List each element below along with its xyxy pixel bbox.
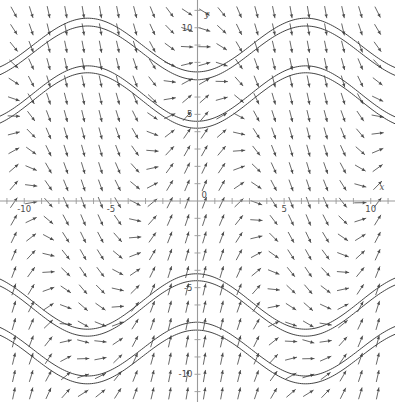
field-arrow-head: [170, 163, 173, 167]
field-arrow-head: [186, 301, 189, 305]
field-arrow-head: [273, 49, 276, 53]
field-arrow-head: [65, 152, 68, 156]
field-arrow-head: [238, 319, 241, 323]
field-arrow-head: [293, 340, 296, 343]
field-arrow-head: [290, 170, 293, 174]
field-arrow-head: [290, 31, 293, 35]
axes-layer: [0, 0, 395, 402]
field-arrow-head: [65, 83, 68, 87]
field-arrow-head: [325, 170, 328, 174]
field-arrow-head: [50, 254, 54, 257]
field-arrow-head: [169, 388, 172, 392]
field-arrow-head: [31, 267, 34, 271]
field-arrow-head: [102, 357, 106, 360]
field-arrow-head: [221, 301, 224, 305]
field-arrow-head: [65, 49, 68, 53]
field-arrow-head: [82, 31, 85, 35]
field-arrow-head: [135, 152, 138, 156]
field-arrow-head: [48, 100, 51, 104]
field-arrow-head: [343, 354, 346, 358]
x-axis-name: x: [380, 182, 385, 192]
field-arrow-head: [169, 370, 172, 374]
field-arrow-head: [342, 49, 345, 53]
field-arrow-head: [169, 318, 172, 322]
field-arrow-head: [239, 65, 242, 69]
x-tick-label: -5: [107, 204, 115, 214]
field-arrow-head: [155, 149, 159, 152]
field-arrow-head: [241, 132, 245, 135]
field-arrow-head: [342, 14, 345, 18]
field-arrow-head: [117, 66, 120, 70]
field-arrow-head: [307, 31, 310, 35]
y-tick-label: -10: [179, 369, 193, 379]
x-tick-label: 5: [281, 204, 286, 214]
field-arrow-head: [47, 49, 50, 53]
field-arrow-head: [290, 49, 293, 53]
field-arrow-head: [134, 66, 137, 70]
field-arrow-head: [258, 235, 262, 238]
field-arrow-head: [16, 98, 20, 101]
field-arrow-head: [99, 14, 102, 18]
field-arrow-head: [377, 353, 380, 357]
field-arrow-head: [273, 31, 276, 35]
field-arrow-head: [16, 115, 19, 118]
field-arrow-head: [187, 129, 190, 133]
field-arrow-head: [85, 357, 88, 360]
field-arrow-head: [186, 215, 189, 219]
field-arrow-head: [290, 14, 293, 18]
field-arrow-head: [325, 66, 328, 70]
field-arrow-head: [241, 149, 245, 152]
field-arrow-head: [325, 83, 328, 87]
field-arrow-head: [82, 187, 85, 191]
field-arrow-head: [378, 48, 381, 52]
field-arrow-head: [290, 118, 293, 122]
field-arrow-head: [275, 255, 279, 258]
field-arrow-head: [324, 31, 327, 35]
field-arrow-head: [120, 288, 124, 291]
field-arrow-head: [203, 370, 206, 374]
field-arrow-head: [189, 62, 193, 65]
field-arrow-head: [153, 116, 157, 119]
field-arrow-head: [99, 118, 102, 122]
field-arrow-head: [137, 219, 141, 222]
x-tick-label: -10: [17, 204, 31, 214]
field-arrow-head: [326, 256, 329, 260]
field-arrow-head: [117, 31, 120, 35]
field-arrow-head: [169, 353, 172, 357]
field-arrow-head: [221, 318, 224, 322]
x-tick-label: 10: [365, 204, 376, 214]
field-arrow-head: [118, 221, 121, 225]
y-axis-name: y: [204, 9, 210, 19]
field-arrow-head: [203, 301, 206, 305]
field-arrow-head: [51, 270, 55, 273]
field-arrow-head: [117, 135, 120, 139]
field-arrow-head: [259, 219, 263, 222]
field-arrow-head: [359, 31, 362, 35]
field-arrow-head: [221, 370, 224, 374]
field-arrow-head: [13, 388, 16, 392]
field-arrow-head: [68, 339, 72, 342]
field-arrow-head: [325, 101, 328, 105]
field-arrow-head: [311, 357, 314, 360]
field-arrow-head: [117, 49, 120, 53]
field-arrow-head: [293, 356, 297, 359]
field-arrow-head: [290, 83, 293, 87]
field-arrow-head: [186, 266, 189, 270]
field-arrow-head: [65, 66, 68, 70]
field-arrow-head: [136, 269, 140, 272]
field-arrow-head: [99, 101, 102, 105]
field-arrow-head: [290, 101, 293, 105]
field-arrow-head: [344, 237, 348, 240]
field-arrow-head: [82, 101, 85, 105]
field-arrow-head: [345, 271, 349, 274]
field-arrow-head: [308, 187, 311, 191]
field-arrow-head: [169, 249, 172, 253]
field-arrow-head: [99, 83, 102, 87]
slope-field-figure: -10-5510105-5-100xy: [0, 0, 395, 402]
field-arrow-head: [307, 66, 310, 70]
field-arrow-head: [171, 47, 175, 50]
y-tick-label: 5: [187, 109, 192, 119]
field-arrow-head: [379, 165, 383, 168]
field-arrow-head: [203, 336, 206, 340]
origin-label: 0: [202, 190, 207, 200]
